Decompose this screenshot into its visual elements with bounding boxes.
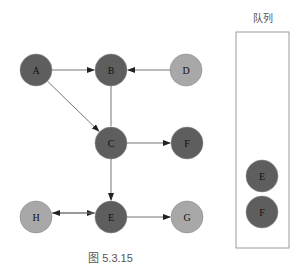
node-A: A — [20, 54, 52, 86]
node-label: D — [182, 65, 189, 76]
node-label: E — [108, 212, 114, 223]
graph-diagram: ABDCFHEG EF — [0, 0, 307, 277]
queue-item-E: E — [246, 160, 278, 192]
node-label: C — [108, 138, 115, 149]
node-E: E — [95, 201, 127, 233]
node-G: G — [171, 201, 203, 233]
node-label: B — [108, 65, 115, 76]
node-label: H — [32, 212, 39, 223]
node-label: G — [183, 212, 190, 223]
node-H: H — [20, 201, 52, 233]
node-label: E — [259, 171, 265, 182]
queue-item-F: F — [246, 196, 278, 228]
node-label: A — [32, 65, 40, 76]
graph-nodes: ABDCFHEG — [20, 54, 203, 233]
queue-title: 队列 — [236, 10, 290, 25]
node-D: D — [170, 54, 202, 86]
edge-A-C — [47, 81, 98, 131]
node-label: F — [259, 207, 265, 218]
node-C: C — [95, 127, 127, 159]
figure-caption: 图 5.3.15 — [0, 249, 221, 265]
node-label: F — [184, 138, 190, 149]
node-B: B — [95, 54, 127, 86]
queue-items: EF — [246, 160, 278, 228]
node-F: F — [171, 127, 203, 159]
